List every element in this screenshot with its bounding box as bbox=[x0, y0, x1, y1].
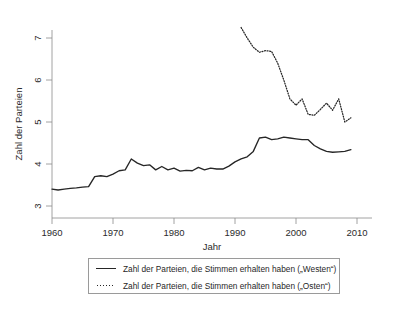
y-tick-label-7: 7 bbox=[32, 35, 43, 40]
y-tick-label-4: 4 bbox=[32, 161, 43, 166]
x-tick-label-1970: 1970 bbox=[102, 227, 123, 238]
x-tick-label-2010: 2010 bbox=[346, 227, 367, 238]
series-line-osten bbox=[241, 28, 351, 123]
series-line-westen bbox=[52, 137, 351, 190]
solid-line-key-icon bbox=[96, 264, 116, 274]
x-tick-label-1980: 1980 bbox=[163, 227, 184, 238]
y-axis-title: Zahl der Parteien bbox=[13, 88, 24, 161]
chart-container: 7 6 5 4 3 Zahl der Parteien 1960 1970 19… bbox=[0, 0, 397, 309]
x-tick-label-2000: 2000 bbox=[285, 227, 306, 238]
y-tick-label-6: 6 bbox=[32, 77, 43, 82]
legend-label-westen: Zahl der Parteien, die Stimmen erhalten … bbox=[123, 264, 336, 274]
legend-item-westen: Zahl der Parteien, die Stimmen erhalten … bbox=[89, 260, 339, 277]
legend-label-osten: Zahl der Parteien, die Stimmen erhalten … bbox=[123, 281, 331, 291]
y-axis: 7 6 5 4 3 Zahl der Parteien bbox=[13, 30, 52, 218]
x-axis-title: Jahr bbox=[203, 241, 221, 252]
y-tick-label-5: 5 bbox=[32, 119, 43, 124]
x-tick-label-1960: 1960 bbox=[41, 227, 62, 238]
dotted-line-key-icon bbox=[96, 281, 116, 291]
x-axis: 1960 1970 1980 1990 2000 2010 Jahr bbox=[41, 218, 372, 252]
x-tick-label-1990: 1990 bbox=[224, 227, 245, 238]
legend-item-osten: Zahl der Parteien, die Stimmen erhalten … bbox=[89, 277, 339, 294]
chart-legend: Zahl der Parteien, die Stimmen erhalten … bbox=[88, 258, 340, 294]
y-tick-label-3: 3 bbox=[32, 203, 43, 208]
